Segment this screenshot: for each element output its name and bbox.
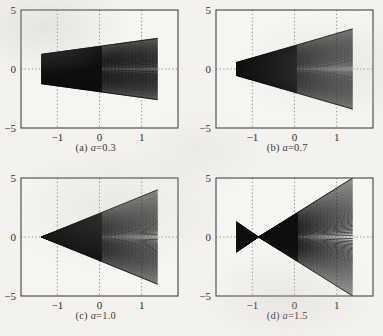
panel-c-caption: (c) a=1.0 xyxy=(0,310,192,321)
ytick-d-5: 5 xyxy=(205,172,211,184)
panel-a: 5 0 −5 −1 0 1 (a) a=0.3 xyxy=(0,0,192,168)
ytick-c-0: 0 xyxy=(11,231,17,243)
ytick-a-5: 5 xyxy=(11,4,17,16)
ytick-c-5: 5 xyxy=(11,172,17,184)
panel-b-caption: (b) a=0.7 xyxy=(192,142,383,153)
panel-c-caption-prefix: (c) xyxy=(76,310,88,321)
panel-a-caption: (a) a=0.3 xyxy=(0,142,192,153)
panel-d-caption: (d) a=1.5 xyxy=(192,310,383,321)
panel-a-caption-value: 0.3 xyxy=(102,142,116,153)
panel-d: 5 0 −5 −1 0 1 (d) a=1.5 xyxy=(192,168,383,336)
panel-c-caption-value: 1.0 xyxy=(102,310,116,321)
panel-c: 5 0 −5 −1 0 1 (c) a=1.0 xyxy=(0,168,192,336)
ytick-d-neg5: −5 xyxy=(199,290,211,302)
panel-d-caption-value: 1.5 xyxy=(294,310,308,321)
panel-b-caption-value: 0.7 xyxy=(294,142,308,153)
panel-b: 5 0 −5 −1 0 1 (b) a=0.7 xyxy=(192,0,383,168)
ytick-b-neg5: −5 xyxy=(199,122,211,134)
ytick-a-0: 0 xyxy=(11,63,17,75)
ytick-c-neg5: −5 xyxy=(4,290,16,302)
figure-panel-grid: 5 0 −5 −1 0 1 (a) a=0.3 xyxy=(0,0,383,336)
ytick-b-0: 0 xyxy=(205,63,211,75)
panel-d-caption-prefix: (d) xyxy=(267,310,280,321)
ytick-b-5: 5 xyxy=(205,4,211,16)
panel-b-caption-prefix: (b) xyxy=(267,142,280,153)
ytick-d-0: 0 xyxy=(205,231,211,243)
panel-a-caption-prefix: (a) xyxy=(76,142,88,153)
ytick-a-neg5: −5 xyxy=(4,122,16,134)
